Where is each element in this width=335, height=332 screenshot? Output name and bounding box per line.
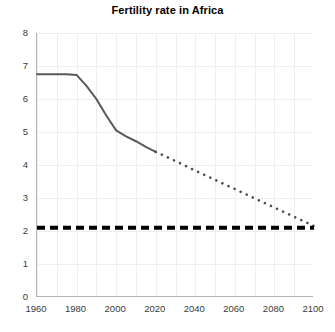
series-line-projection [156, 152, 314, 226]
y-axis-tick-label: 1 [6, 259, 28, 269]
y-axis-tick-label: 7 [6, 61, 28, 71]
x-axis-tick-label: 2100 [293, 303, 333, 314]
x-axis-tick-label: 2060 [214, 303, 254, 314]
x-axis-tick-label: 2020 [135, 303, 175, 314]
x-axis-tick-label: 2040 [174, 303, 214, 314]
y-axis-tick-label: 8 [6, 28, 28, 38]
x-axis-tick-label: 2080 [253, 303, 293, 314]
x-axis-tick-label: 2000 [95, 303, 135, 314]
x-axis-tick-label: 1960 [16, 303, 56, 314]
chart-screenshot: Fertility rate in Africa 012345678 19601… [0, 0, 335, 332]
chart-title: Fertility rate in Africa [0, 4, 335, 16]
y-axis-tick-label: 6 [6, 94, 28, 104]
y-axis-tick-label: 0 [6, 292, 28, 302]
x-axis-tick-label: 1980 [56, 303, 96, 314]
y-axis-tick-label: 3 [6, 193, 28, 203]
y-axis-tick-label: 5 [6, 127, 28, 137]
y-axis-tick-label: 4 [6, 160, 28, 170]
plot-area [36, 33, 313, 297]
series-line-historical [37, 74, 156, 152]
data-series-layer [37, 33, 314, 297]
y-axis-tick-label: 2 [6, 226, 28, 236]
